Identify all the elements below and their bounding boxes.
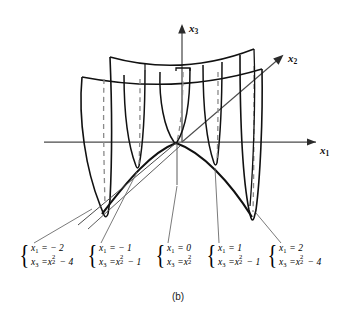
front-top-rim bbox=[82, 69, 262, 84]
x2-axis-label: x2 bbox=[288, 52, 297, 66]
sheet-right-bottom-vertex bbox=[251, 218, 254, 220]
cross-section-x1-plus-1 bbox=[203, 62, 222, 165]
equation-line-x3: x3 =x22 − 1 bbox=[218, 256, 260, 269]
brace-glyph: { bbox=[207, 242, 217, 269]
cross-section-label-x1-plus-1: { x1 = 1 x3 =x22 − 1 bbox=[205, 242, 260, 269]
equation-line-x3: x3 =x22 bbox=[167, 256, 193, 269]
parabola-minus-1-left bbox=[124, 75, 136, 166]
parabola-zero-right bbox=[177, 68, 190, 142]
brace-glyph: { bbox=[20, 242, 30, 269]
x1-axis-arrowhead bbox=[307, 138, 316, 145]
parabola-plus-1-vertex bbox=[214, 163, 217, 165]
brace-glyph: { bbox=[88, 242, 98, 269]
brace-glyph: { bbox=[156, 242, 166, 269]
surface-top-rims bbox=[82, 49, 262, 84]
leader-line-x1-zero bbox=[168, 186, 177, 243]
equation-line-x3: x3 =x22 − 1 bbox=[99, 256, 141, 269]
brace-glyph: { bbox=[268, 242, 278, 269]
equation-line-x3: x3 =x22 − 4 bbox=[31, 256, 73, 269]
sheet-left-outer-edge bbox=[81, 77, 104, 215]
figure-caption: (b) bbox=[0, 291, 356, 302]
x2-axis-line bbox=[182, 57, 281, 142]
rim-connector-center bbox=[176, 68, 190, 71]
x3-axis-label: x3 bbox=[189, 22, 198, 36]
equation-line-x3: x3 =x22 − 4 bbox=[279, 256, 321, 269]
parabola-minus-1-vertex bbox=[136, 166, 139, 168]
leader-line-x1-minus-2 bbox=[34, 209, 92, 243]
cross-section-label-x1-minus-1: { x1 = − 1 x3 =x22 − 1 bbox=[86, 242, 141, 269]
leader-line-x1-plus-2 bbox=[256, 213, 281, 243]
x1-axis-label: x1 bbox=[320, 144, 329, 158]
x3-axis-arrowhead bbox=[178, 24, 186, 34]
sheet-right-inner-edge bbox=[240, 55, 251, 218]
parabola-minus-1-hidden-rib bbox=[139, 79, 140, 164]
figure-container: x3 x2 x1 { x1 = − 2 x3 =x22 − 4 { x1 = −… bbox=[0, 0, 356, 315]
x2-axis-arrowhead bbox=[273, 55, 283, 65]
cross-section-label-x1-minus-2: { x1 = − 2 x3 =x22 − 4 bbox=[18, 242, 73, 269]
cross-section-label-x1-zero: { x1 = 0 x3 =x22 bbox=[154, 242, 193, 269]
leader-line-x1-plus-1 bbox=[215, 168, 219, 243]
cross-section-x1-zero bbox=[160, 68, 190, 144]
parabola-zero-left bbox=[160, 72, 174, 142]
cross-section-label-x1-plus-2: { x1 = 2 x3 =x22 − 4 bbox=[266, 242, 321, 269]
parabola-plus-1-hidden-rib bbox=[217, 72, 218, 161]
